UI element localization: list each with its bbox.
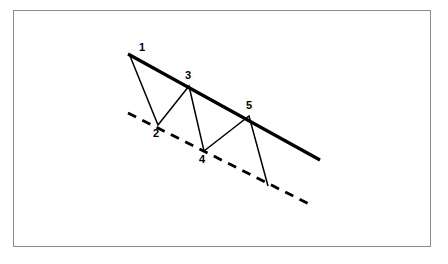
figure-root: 1 2 3 4 5 [0,0,448,264]
pivot-label-4: 4 [199,154,205,165]
upper-trendline [128,54,320,160]
pivot-label-1: 1 [139,42,145,53]
pivot-label-5: 5 [246,100,252,111]
pivot-label-3: 3 [185,70,191,81]
wedge-pattern-drawing [0,0,448,264]
pivot-label-2: 2 [153,128,159,139]
